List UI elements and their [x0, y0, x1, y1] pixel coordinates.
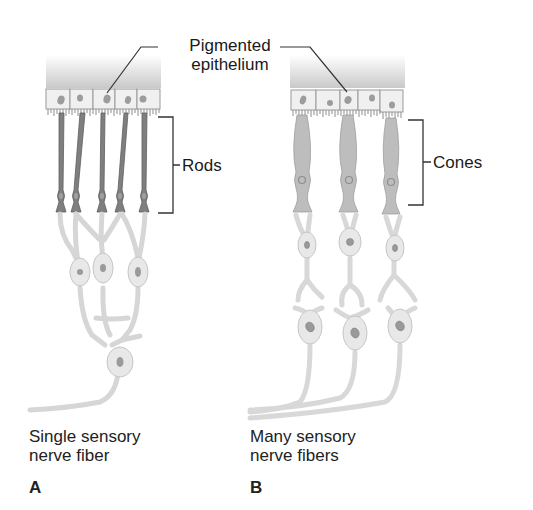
pigmented-epithelium-line1: Pigmented — [180, 36, 280, 55]
panel-label-b: B — [250, 478, 262, 498]
neurons-a — [30, 214, 145, 410]
rods-bracket — [158, 117, 180, 213]
caption-b-line1: Many sensory — [250, 427, 356, 446]
pigmented-epithelium-line2: epithelium — [180, 55, 280, 74]
cone-1 — [293, 115, 312, 212]
pigmented-epithelium-label: Pigmented epithelium — [180, 36, 280, 74]
cones-bracket — [408, 120, 431, 205]
caption-b: Many sensory nerve fibers — [250, 427, 356, 465]
panel-label-a: A — [29, 478, 41, 498]
pigment-layer-a — [46, 55, 161, 88]
panel-b-drawing — [250, 47, 431, 418]
caption-a-line1: Single sensory — [29, 427, 141, 446]
cones — [293, 115, 400, 214]
panel-a-drawing — [30, 47, 180, 410]
cone-2 — [339, 115, 358, 212]
pigment-layer-b — [290, 55, 405, 88]
cones-label: Cones — [433, 153, 482, 172]
rod-2 — [71, 113, 85, 212]
caption-a-line2: nerve fiber — [29, 446, 141, 465]
rods-label: Rods — [182, 156, 222, 175]
caption-a: Single sensory nerve fiber — [29, 427, 141, 465]
cone-3 — [382, 118, 400, 214]
caption-b-line2: nerve fibers — [250, 446, 356, 465]
